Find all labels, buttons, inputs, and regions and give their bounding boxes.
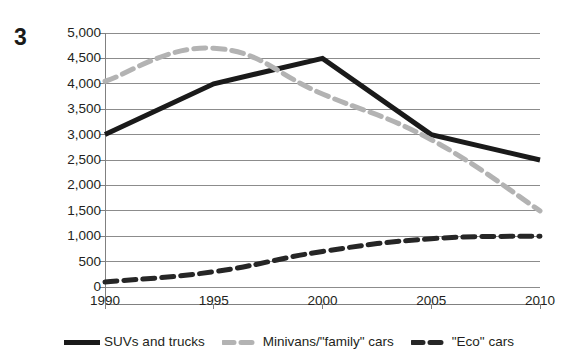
legend-swatch-1: [63, 337, 101, 348]
x-axis-label: 2010: [525, 294, 555, 308]
chart-legend: SUVs and trucksMinivans/"family" cars"Ec…: [0, 329, 577, 355]
legend-label: Minivans/"family" cars: [263, 335, 394, 349]
legend-item: Minivans/"family" cars: [222, 335, 394, 349]
figure-container: 3 5,0004,5004,0003,5003,0002,5002,0001,5…: [0, 0, 577, 360]
legend-swatch-2: [222, 337, 260, 348]
legend-item: SUVs and trucks: [63, 335, 205, 349]
x-axis-label: 1990: [90, 294, 120, 308]
x-axis-label: 2000: [307, 294, 337, 308]
legend-label: SUVs and trucks: [104, 335, 205, 349]
x-axis-label: 2005: [416, 294, 446, 308]
x-axis-label: 1995: [199, 294, 229, 308]
legend-swatch-3: [411, 337, 449, 348]
legend-label: "Eco" cars: [452, 335, 514, 349]
legend-item: "Eco" cars: [411, 335, 514, 349]
x-axis-tick-labels: 19901995200020052010: [0, 0, 577, 318]
line-chart: 5,0004,5004,0003,5003,0002,5002,0001,500…: [0, 0, 577, 318]
